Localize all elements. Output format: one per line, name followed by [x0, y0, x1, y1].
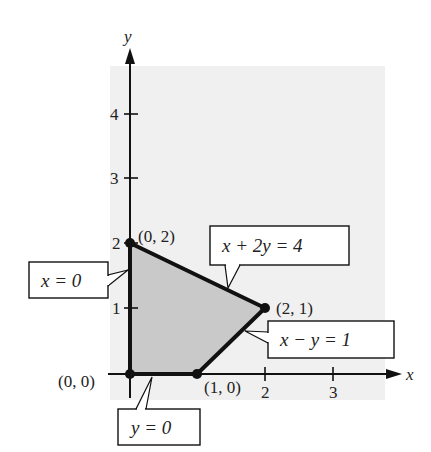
vertex-2-1 [260, 303, 270, 313]
y-axis-arrow-icon [125, 48, 135, 64]
callout-text: x − y = 1 [279, 329, 351, 350]
x-axis-arrow-icon [386, 369, 402, 379]
callout-text: x = 0 [40, 270, 82, 291]
callout-x-minus-y-eq-1: x − y = 1 [245, 321, 394, 358]
y-axis-label: y [122, 27, 132, 46]
y-tick-2: 2 [112, 234, 121, 253]
vertex-origin [125, 369, 135, 379]
linear-programming-diagram: y 1 2 3 4 x 2 3 (0, 0) (0, 2) (2, 1) (1,… [0, 0, 431, 452]
callout-text: y = 0 [129, 417, 172, 438]
x-tick-2: 2 [261, 383, 270, 402]
x-tick-3: 3 [329, 383, 338, 402]
label-2-1: (2, 1) [276, 299, 313, 318]
y-tick-4: 4 [110, 105, 119, 124]
label-origin: (0, 0) [58, 372, 95, 391]
x-axis-label: x [405, 365, 414, 384]
label-0-2: (0, 2) [138, 227, 175, 246]
vertex-1-0 [192, 369, 202, 379]
vertex-0-2 [125, 238, 135, 248]
label-1-0: (1, 0) [204, 378, 241, 397]
y-tick-1: 1 [112, 299, 121, 318]
callout-text: x + 2y = 4 [221, 235, 303, 256]
y-tick-3: 3 [110, 169, 119, 188]
